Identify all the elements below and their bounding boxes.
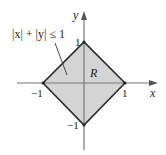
y-axis-arrow-icon	[81, 11, 87, 20]
tick-label-y-neg: −1	[67, 120, 79, 131]
region-label: R	[90, 67, 97, 79]
x-axis-label: x	[150, 87, 155, 99]
tick-label-x-pos: 1	[122, 88, 128, 99]
inequality-label: |x| + |y| ≤ 1	[12, 28, 65, 40]
vertex-dot	[83, 41, 86, 44]
vertex-dot	[124, 82, 127, 85]
region-diagram	[0, 0, 166, 155]
vertex-dot	[42, 82, 45, 85]
y-axis-label: y	[73, 9, 78, 21]
tick-label-y-pos: 1	[75, 37, 81, 48]
tick-label-x-neg: −1	[31, 88, 43, 99]
vertex-dot	[83, 124, 86, 127]
